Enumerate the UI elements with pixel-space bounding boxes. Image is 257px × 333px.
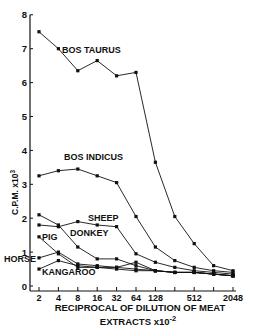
data-point-marker [134, 215, 137, 218]
data-point-marker [173, 271, 176, 274]
data-point-marker [37, 30, 40, 33]
data-point-marker [37, 267, 40, 270]
data-point-marker [57, 169, 60, 172]
y-tick-label: 2 [22, 213, 27, 224]
data-point-marker [115, 257, 118, 260]
data-point-marker [154, 245, 157, 248]
data-point-marker [134, 252, 137, 255]
data-point-marker [134, 71, 137, 74]
data-point-marker [115, 181, 118, 184]
data-point-marker [231, 274, 234, 277]
data-point-marker [173, 215, 176, 218]
data-point-marker [96, 257, 99, 260]
y-axis-label: C.P.M. x103 [9, 170, 20, 215]
x-tick-label: 2048 [223, 293, 243, 303]
data-point-marker [134, 264, 137, 267]
series-label: BOS TAURUS [62, 45, 121, 55]
series-bos-indicus [37, 167, 234, 274]
data-point-marker [115, 74, 118, 77]
data-point-marker [96, 174, 99, 177]
series-label: KANGAROO [42, 267, 96, 277]
x-axis: 2481632641285122048 [30, 287, 243, 303]
data-point-marker [37, 235, 40, 238]
data-point-marker [57, 259, 60, 262]
series-line [39, 169, 233, 272]
data-point-marker [57, 223, 60, 226]
series-label: BOS INDICUS [64, 152, 123, 162]
series-label: PIG [42, 232, 58, 242]
chart: 012345678 2481632641285122048 BOS TAURUS… [0, 0, 257, 333]
data-point-marker [154, 269, 157, 272]
x-axis-label-line1: RECIPROCAL OF DILUTION OF MEAT [55, 302, 226, 313]
data-point-marker [193, 266, 196, 269]
data-point-marker [96, 266, 99, 269]
y-tick-label: 5 [22, 111, 28, 122]
data-point-marker [193, 242, 196, 245]
data-point-marker [173, 259, 176, 262]
data-point-marker [37, 223, 40, 226]
data-point-marker [115, 225, 118, 228]
series-label: HORSE [4, 254, 36, 264]
y-tick-label: 6 [22, 77, 27, 88]
y-tick-label: 0 [22, 281, 27, 292]
y-tick-label: 7 [22, 43, 27, 54]
data-point-marker [37, 213, 40, 216]
data-point-marker [76, 220, 79, 223]
data-point-marker [37, 256, 40, 259]
data-point-marker [212, 273, 215, 276]
x-axis-label-line2: EXTRACTS x10-2 [100, 314, 176, 327]
data-point-marker [57, 47, 60, 50]
x-tick-label: 2 [36, 293, 41, 303]
data-point-marker [173, 266, 176, 269]
y-axis: 012345678 [22, 9, 33, 291]
data-point-marker [76, 69, 79, 72]
data-point-marker [212, 264, 215, 267]
data-point-marker [115, 266, 118, 269]
data-point-marker [76, 245, 79, 248]
y-tick-label: 8 [22, 9, 27, 20]
data-point-marker [96, 223, 99, 226]
data-point-marker [134, 261, 137, 264]
y-tick-label: 4 [22, 145, 28, 156]
y-tick-label: 3 [22, 179, 27, 190]
data-point-marker [193, 271, 196, 274]
data-point-marker [37, 174, 40, 177]
data-point-marker [96, 59, 99, 62]
data-point-marker [154, 161, 157, 164]
series-label: SHEEP [88, 213, 119, 223]
series-label: DONKEY [70, 228, 109, 238]
data-point-marker [154, 261, 157, 264]
data-point-marker [134, 267, 137, 270]
data-point-marker [76, 167, 79, 170]
data-point-marker [57, 251, 60, 254]
